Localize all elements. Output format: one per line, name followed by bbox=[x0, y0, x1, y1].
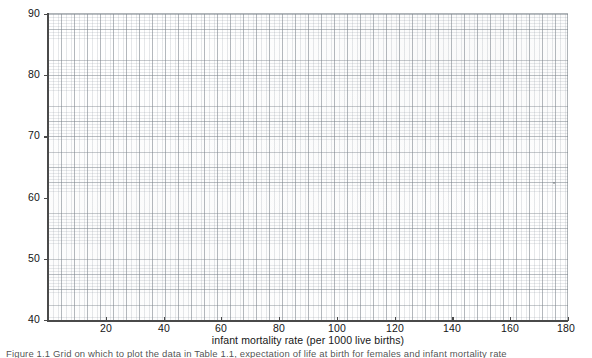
x-tick-mark bbox=[279, 317, 280, 321]
x-tick-label: 60 bbox=[201, 322, 241, 334]
y-tick-label: 60 bbox=[14, 191, 40, 203]
plot-border-top bbox=[48, 13, 568, 14]
y-tick-mark bbox=[44, 75, 48, 76]
y-tick-mark bbox=[44, 136, 48, 137]
y-tick-mark bbox=[44, 198, 48, 199]
x-tick-label: 20 bbox=[86, 322, 126, 334]
x-tick-label: 180 bbox=[546, 322, 586, 334]
x-tick-label: 100 bbox=[317, 322, 357, 334]
x-tick-label: 140 bbox=[432, 322, 472, 334]
scan-speck bbox=[553, 182, 555, 184]
x-tick-mark bbox=[452, 317, 453, 321]
x-tick-mark bbox=[395, 317, 396, 321]
figure-caption: Figure 1.1 Grid on which to plot the dat… bbox=[0, 350, 592, 358]
x-tick-label: 80 bbox=[259, 322, 299, 334]
y-tick-label: 40 bbox=[14, 313, 40, 325]
y-tick-label: 80 bbox=[14, 68, 40, 80]
y-tick-label: 70 bbox=[14, 129, 40, 141]
plot-border-right bbox=[567, 14, 568, 320]
x-tick-mark bbox=[568, 317, 569, 321]
x-tick-mark bbox=[106, 317, 107, 321]
y-axis-spine bbox=[47, 13, 49, 321]
x-axis-title: infant mortality rate (per 1000 live bir… bbox=[48, 334, 568, 346]
y-tick-mark bbox=[44, 14, 48, 15]
x-tick-label: 120 bbox=[375, 322, 415, 334]
x-tick-mark bbox=[221, 317, 222, 321]
y-tick-mark bbox=[44, 320, 48, 321]
y-tick-label: 50 bbox=[14, 252, 40, 264]
y-tick-label: 90 bbox=[14, 7, 40, 19]
x-tick-label: 160 bbox=[490, 322, 530, 334]
figure-caption-text: Figure 1.1 Grid on which to plot the dat… bbox=[6, 350, 507, 358]
x-tick-mark bbox=[164, 317, 165, 321]
y-tick-mark bbox=[44, 259, 48, 260]
x-tick-mark bbox=[510, 317, 511, 321]
paper-tone-overlay bbox=[48, 14, 568, 320]
x-tick-mark bbox=[337, 317, 338, 321]
x-tick-label: 40 bbox=[144, 322, 184, 334]
figure-container: expectation of life at birth for females… bbox=[0, 0, 592, 358]
plot-area bbox=[48, 14, 568, 320]
